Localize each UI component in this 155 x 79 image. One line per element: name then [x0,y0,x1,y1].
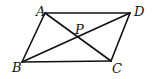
segment-AB [22,13,45,62]
segment-BC [22,61,111,62]
label-C: C [112,61,122,76]
segments [22,13,130,62]
label-A: A [35,4,45,19]
label-B: B [11,60,22,75]
parallelogram-diagram: A D B C P [0,0,155,79]
label-D: D [133,4,145,19]
label-P: P [74,22,84,37]
